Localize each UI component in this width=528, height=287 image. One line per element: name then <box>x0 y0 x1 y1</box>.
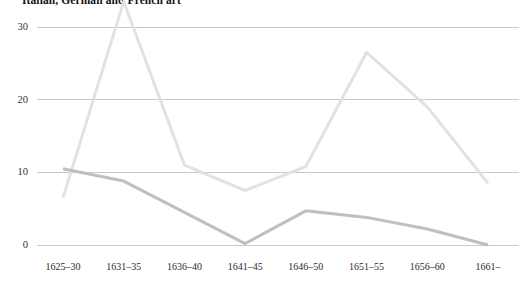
x-tick-label: 1646–50 <box>288 261 323 272</box>
x-tick-label: 1656–60 <box>410 261 445 272</box>
y-tick-label: 20 <box>2 94 28 105</box>
line-chart-svg <box>0 0 528 287</box>
x-tick-label: 1641–45 <box>228 261 263 272</box>
gridlines-group <box>37 27 519 245</box>
series-group <box>63 2 488 245</box>
plot-area: 0102030 1625–301631–351636–401641–451646… <box>0 0 528 287</box>
y-tick-label: 30 <box>2 21 28 32</box>
chart-page: Italian, German and French art 0102030 1… <box>0 0 528 287</box>
x-tick-label: 1661– <box>476 261 501 272</box>
y-tick-label: 0 <box>2 239 28 250</box>
x-tick-label: 1636–40 <box>167 261 202 272</box>
x-tick-label: 1631–35 <box>106 261 141 272</box>
line-series-dark <box>63 169 488 245</box>
x-tick-label: 1651–55 <box>349 261 384 272</box>
x-tick-label: 1625–30 <box>46 261 81 272</box>
y-tick-label: 10 <box>2 166 28 177</box>
